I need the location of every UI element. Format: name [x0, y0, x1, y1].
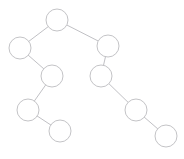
tree-node	[155, 125, 177, 147]
tree-edge	[109, 84, 128, 103]
binary-tree-figure	[0, 0, 184, 159]
tree-edge	[37, 116, 51, 125]
tree-node	[49, 120, 71, 142]
tree-edge	[34, 85, 45, 101]
tree-node-circle	[49, 120, 71, 142]
tree-node	[17, 99, 39, 121]
tree-node	[125, 99, 147, 121]
tree-node-circle	[9, 37, 31, 59]
tree-node	[97, 35, 119, 57]
tree-node	[46, 9, 68, 31]
tree-edge	[104, 57, 106, 66]
tree-node-circle	[46, 9, 68, 31]
tree-node	[90, 65, 112, 87]
tree-edge	[144, 117, 157, 129]
tree-node-circle	[125, 99, 147, 121]
tree-node-layer	[9, 9, 177, 147]
tree-node-circle	[41, 65, 63, 87]
tree-node	[41, 65, 63, 87]
tree-node-circle	[17, 99, 39, 121]
tree-edge	[29, 27, 48, 42]
tree-node-circle	[97, 35, 119, 57]
tree-edge	[67, 25, 98, 41]
tree-node	[9, 37, 31, 59]
tree-edge	[28, 55, 43, 69]
tree-node-circle	[155, 125, 177, 147]
tree-node-circle	[90, 65, 112, 87]
tree-canvas	[0, 0, 184, 159]
